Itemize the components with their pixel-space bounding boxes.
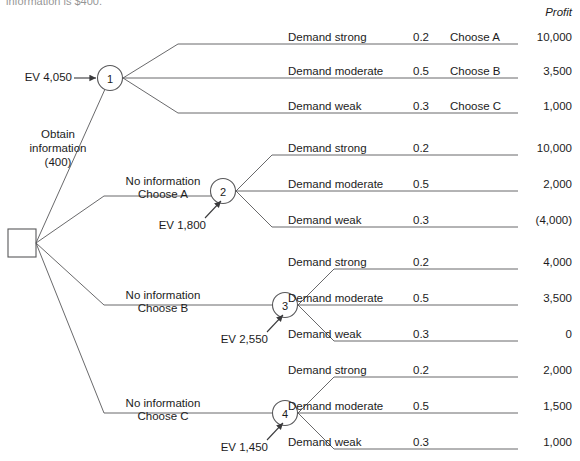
node3-prob-weak: 0.3 — [413, 328, 429, 341]
node4-profit-moderate: 1,500 — [543, 400, 572, 413]
node1-choice-weak: Choose C — [450, 100, 501, 113]
node4-demand-moderate-label: Demand moderate — [288, 400, 383, 413]
node3-prob-moderate: 0.5 — [413, 292, 429, 305]
node4-demand-weak-label: Demand weak — [288, 436, 362, 449]
ev-arrow-node-3 — [267, 315, 283, 332]
root-label-choose-b-line2: Choose B — [138, 302, 189, 315]
node1-prob-weak: 0.3 — [413, 100, 429, 113]
root-label-choose-a-line1: No information — [126, 175, 201, 188]
node3-demand-weak-label: Demand weak — [288, 328, 362, 341]
node1-profit-moderate: 3,500 — [543, 65, 572, 78]
root-label-choose-b-line1: No information — [126, 289, 201, 302]
node2-prob-weak: 0.3 — [413, 214, 429, 227]
node1-profit-weak: 1,000 — [543, 100, 572, 113]
node2-demand-moderate-label: Demand moderate — [288, 178, 383, 191]
node1-demand-moderate-label: Demand moderate — [288, 65, 383, 78]
node2-branch-weak — [236, 191, 518, 227]
node3-demand-strong-label: Demand strong — [288, 256, 367, 269]
node1-prob-moderate: 0.5 — [413, 65, 429, 78]
node2-profit-weak: (4,000) — [536, 214, 572, 227]
ev-label-node-2: EV 1,800 — [159, 219, 206, 232]
root-label-choose-c-line1: No information — [126, 397, 201, 410]
ev-label-node-1: EV 4,050 — [25, 71, 72, 84]
node1-choice-moderate: Choose B — [450, 65, 501, 78]
node2-prob-moderate: 0.5 — [413, 178, 429, 191]
root-label-obtain-line2: information — [30, 142, 87, 155]
node1-profit-strong: 10,000 — [537, 31, 572, 44]
node4-prob-moderate: 0.5 — [413, 400, 429, 413]
node1-prob-strong: 0.2 — [413, 31, 429, 44]
root-label-obtain-line3: (400) — [45, 156, 72, 169]
chance-node-2-number: 2 — [220, 186, 226, 198]
node2-profit-strong: 10,000 — [537, 142, 572, 155]
ev-arrow-node-4 — [267, 423, 283, 440]
node4-profit-strong: 2,000 — [543, 364, 572, 377]
node3-profit-strong: 4,000 — [543, 256, 572, 269]
node4-prob-strong: 0.2 — [413, 364, 429, 377]
node2-profit-moderate: 2,000 — [543, 178, 572, 191]
chance-node-1-number: 1 — [107, 73, 113, 85]
node3-profit-moderate: 3,500 — [543, 292, 572, 305]
node2-demand-weak-label: Demand weak — [288, 214, 362, 227]
root-label-choose-a-line2: Choose A — [138, 188, 188, 201]
node1-demand-strong-label: Demand strong — [288, 31, 367, 44]
node2-demand-strong-label: Demand strong — [288, 142, 367, 155]
ev-label-node-3: EV 2,550 — [221, 333, 268, 346]
node1-choice-strong: Choose A — [450, 31, 500, 44]
root-label-obtain-line1: Obtain — [41, 128, 75, 141]
profit-column-header: Profit — [545, 6, 572, 19]
node3-demand-moderate-label: Demand moderate — [288, 292, 383, 305]
decision-tree-diagram: information is $400. — [0, 0, 580, 461]
node2-prob-strong: 0.2 — [413, 142, 429, 155]
node1-demand-weak-label: Demand weak — [288, 100, 362, 113]
ev-arrow-node-2 — [205, 201, 221, 218]
ev-label-node-4: EV 1,450 — [221, 441, 268, 454]
root-decision-square — [8, 229, 36, 257]
node4-demand-strong-label: Demand strong — [288, 364, 367, 377]
node3-prob-strong: 0.2 — [413, 256, 429, 269]
node4-profit-weak: 1,000 — [543, 436, 572, 449]
root-branch-choose-c — [36, 243, 285, 413]
node4-prob-weak: 0.3 — [413, 436, 429, 449]
node3-profit-weak: 0 — [566, 328, 572, 341]
root-label-choose-c-line2: Choose C — [137, 410, 188, 423]
